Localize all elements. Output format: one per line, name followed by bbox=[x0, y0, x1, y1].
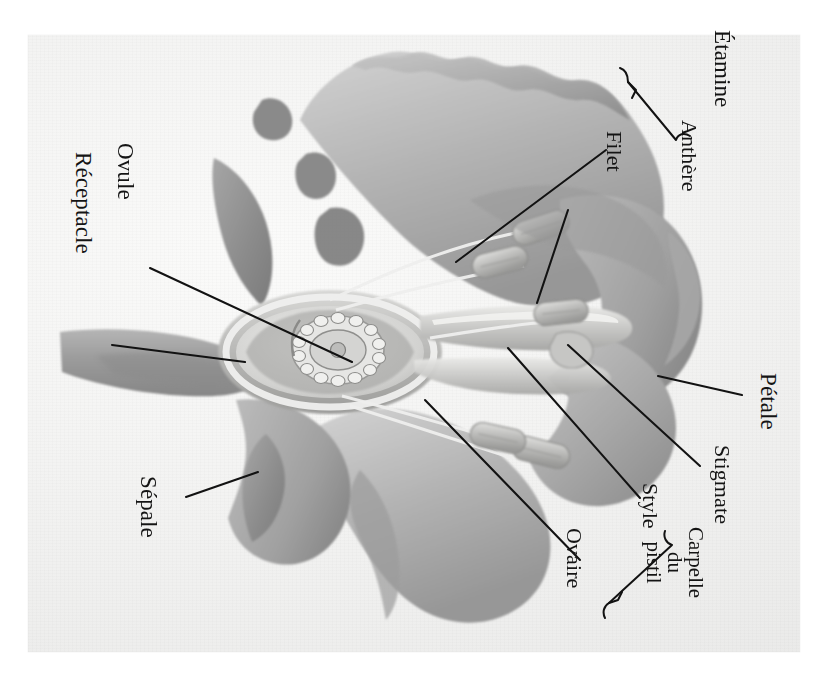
sepal-upper-left bbox=[212, 158, 272, 306]
petal-dark-notch-a bbox=[253, 98, 292, 140]
petal-dark-notch-b bbox=[295, 152, 336, 198]
label-ovaire: Ovaire bbox=[563, 528, 585, 588]
petal-dark-notch-c bbox=[315, 207, 365, 265]
label-carpelle-line1: Carpelle bbox=[685, 527, 706, 598]
label-filet: Filet bbox=[603, 131, 625, 172]
label-carpelle-line2: du bbox=[664, 527, 685, 598]
label-sepale: Sépale bbox=[137, 476, 160, 538]
label-carpelle-line3: pistil bbox=[643, 527, 664, 598]
label-carpelle-du-pistil: Carpelle du pistil bbox=[643, 527, 706, 598]
label-stigmate: Stigmate bbox=[711, 445, 733, 524]
label-receptacle: Réceptacle bbox=[72, 152, 95, 254]
label-etamine: Étamine bbox=[711, 30, 734, 107]
label-anthere: Anthère bbox=[678, 120, 700, 192]
brace-etamine-tip bbox=[628, 82, 636, 98]
label-ovule: Ovule bbox=[114, 143, 137, 200]
leader-petale bbox=[658, 376, 742, 395]
label-style: Style bbox=[639, 483, 661, 529]
label-petale: Pétale bbox=[757, 373, 780, 430]
